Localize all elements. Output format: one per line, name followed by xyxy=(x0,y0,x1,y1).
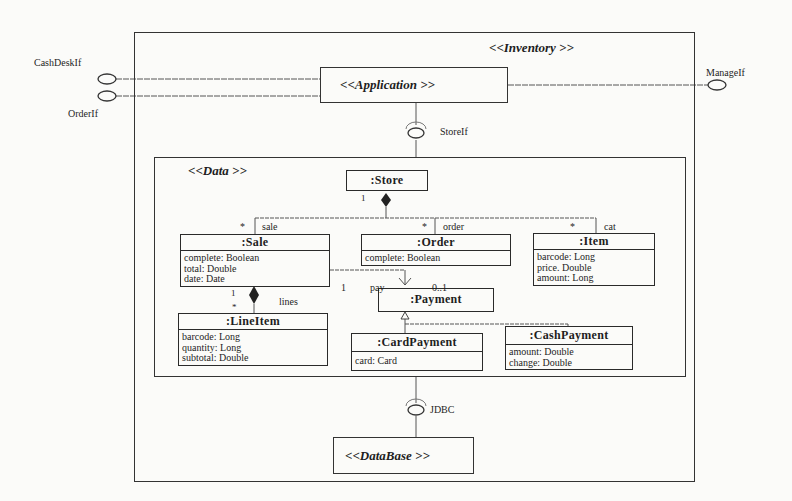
item-role: cat xyxy=(604,221,616,232)
database-stereotype: <<DataBase >> xyxy=(345,448,430,464)
orderif-label: OrderIf xyxy=(68,108,98,119)
class-name: :LineItem xyxy=(179,314,327,330)
attribute: subtotal: Double xyxy=(182,353,324,364)
class-name: :CardPayment xyxy=(352,334,482,352)
sale-pay-multiplicity: 1 xyxy=(341,282,346,293)
attribute: barcode: Long xyxy=(182,332,324,343)
class-name: :Sale xyxy=(181,235,329,251)
class-name: :Order xyxy=(362,235,510,251)
store-multiplicity: 1 xyxy=(361,193,366,203)
lines-role: lines xyxy=(279,296,298,307)
manageif-lollipop-icon xyxy=(708,80,726,90)
order-role: order xyxy=(443,221,464,232)
pay-role: pay xyxy=(370,282,384,293)
manageif-label: ManageIf xyxy=(706,67,745,78)
lineitem-multiplicity: * xyxy=(232,302,237,312)
class-name: :CashPayment xyxy=(506,327,632,345)
class-cashpayment: :CashPayment amount: Double change: Doub… xyxy=(505,326,633,370)
application-stereotype: <<Application >> xyxy=(340,77,435,93)
sale-lines-multiplicity: 1 xyxy=(231,288,236,298)
data-stereotype: <<Data >> xyxy=(188,163,247,179)
storeif-label: StoreIf xyxy=(440,126,468,137)
payment-multiplicity: 0..1 xyxy=(432,282,447,293)
class-lineitem: :LineItem barcode: Long quantity: Long s… xyxy=(178,313,328,366)
item-multiplicity: * xyxy=(570,221,575,232)
class-order: :Order complete: Boolean xyxy=(361,234,511,266)
sale-role: sale xyxy=(262,221,278,232)
cashdeskif-label: CashDeskIf xyxy=(34,57,81,68)
attribute: amount: Long xyxy=(537,273,651,284)
cashdeskif-lollipop-icon xyxy=(98,74,116,84)
attribute: complete: Boolean xyxy=(365,253,507,264)
orderif-lollipop-icon xyxy=(98,91,116,101)
class-name: :Store xyxy=(347,171,427,189)
jdbc-label: JDBC xyxy=(430,404,454,415)
inventory-stereotype: <<Inventory >> xyxy=(489,40,574,56)
class-item: :Item barcode: Long price. Double amount… xyxy=(533,233,655,286)
class-cardpayment: :CardPayment card: Card xyxy=(351,333,483,371)
order-multiplicity: * xyxy=(422,221,427,232)
attribute: change: Double xyxy=(509,358,629,369)
sale-multiplicity: * xyxy=(240,221,245,232)
attribute: barcode: Long xyxy=(537,252,651,263)
attribute: amount: Double xyxy=(509,347,629,358)
class-name: :Item xyxy=(534,234,654,250)
attribute: card: Card xyxy=(355,356,479,367)
class-sale: :Sale complete: Boolean total: Double da… xyxy=(180,234,330,287)
attribute: date: Date xyxy=(184,274,326,285)
attribute: complete: Boolean xyxy=(184,253,326,264)
class-store: :Store xyxy=(346,170,428,191)
